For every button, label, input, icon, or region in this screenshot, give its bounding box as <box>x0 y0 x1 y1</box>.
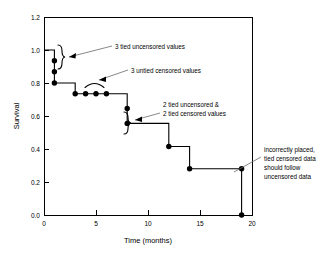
y-tick-label-6: 1.2 <box>31 14 40 21</box>
data-point-marker <box>93 91 98 96</box>
x-tick-label-3: 15 <box>196 220 204 227</box>
x-tick-label-1: 5 <box>94 220 98 227</box>
data-point-marker <box>52 69 57 74</box>
x-tick-label-4: 20 <box>248 220 256 227</box>
annotation-leaders <box>69 46 261 172</box>
y-tick-label-4: 0.8 <box>31 80 40 87</box>
y-axis-ticks <box>44 17 49 215</box>
x-axis-tick-labels: 0 5 10 15 20 <box>42 220 256 227</box>
data-point-marker <box>187 166 192 171</box>
x-tick-label-2: 10 <box>144 220 152 227</box>
leader-arrowhead-tied-both <box>135 117 142 123</box>
annotation-incorrect-placement-line-1: tied censored data <box>264 155 316 162</box>
leader-incorrect-placement <box>234 157 261 172</box>
annotation-tied-both: 2 tied uncensored & 2 tied censored valu… <box>163 101 226 117</box>
y-tick-label-1: 0.2 <box>31 179 40 186</box>
data-point-marker <box>52 58 57 63</box>
y-tick-label-5: 1.0 <box>31 47 40 54</box>
brace-tied-uncensored-icon <box>58 45 65 69</box>
annotation-tied-uncensored-line-0: 3 tied uncensored values <box>115 43 185 50</box>
data-point-marker <box>83 91 88 96</box>
data-point-marker <box>52 80 57 85</box>
annotation-incorrect-placement-line-0: incorrectly placed, <box>264 146 315 154</box>
arc-untied-censored-icon <box>85 84 104 88</box>
brace-group <box>58 45 131 134</box>
y-tick-label-0: 0.0 <box>31 212 40 219</box>
data-point-marker <box>73 91 78 96</box>
x-axis-ticks <box>44 210 252 215</box>
annotation-untied-censored-line-0: 3 untied censored values <box>131 67 201 74</box>
survival-step-curve <box>44 50 242 215</box>
survival-chart-svg: 0.0 0.2 0.4 0.6 0.8 1.0 1.2 0 5 10 15 20… <box>0 0 336 259</box>
leader-arrowhead-tied-uncensored <box>69 53 76 59</box>
survival-chart-figure: 0.0 0.2 0.4 0.6 0.8 1.0 1.2 0 5 10 15 20… <box>0 0 336 259</box>
y-axis-tick-labels: 0.0 0.2 0.4 0.6 0.8 1.0 1.2 <box>31 14 40 219</box>
annotation-tied-uncensored: 3 tied uncensored values <box>115 43 185 50</box>
data-point-marker <box>125 106 130 111</box>
y-tick-label-2: 0.4 <box>31 146 40 153</box>
annotation-incorrect-placement-line-3: uncensored data <box>264 173 311 180</box>
x-tick-label-0: 0 <box>42 220 46 227</box>
annotation-incorrect-placement: incorrectly placed, tied censored data s… <box>264 146 316 180</box>
annotation-incorrect-placement-line-2: should follow <box>264 164 301 171</box>
y-axis-title: Survival <box>12 102 21 129</box>
data-point-marker <box>104 91 109 96</box>
data-point-marker <box>166 144 171 149</box>
data-point-markers <box>52 58 245 218</box>
annotation-untied-censored: 3 untied censored values <box>131 67 201 74</box>
step-curve-path <box>44 50 242 215</box>
x-axis-title: Time (months) <box>124 236 173 245</box>
data-point-marker <box>239 212 244 217</box>
annotation-tied-both-line-1: 2 tied censored values <box>163 110 226 117</box>
y-tick-label-3: 0.6 <box>31 113 40 120</box>
annotation-tied-both-line-0: 2 tied uncensored & <box>163 101 220 108</box>
